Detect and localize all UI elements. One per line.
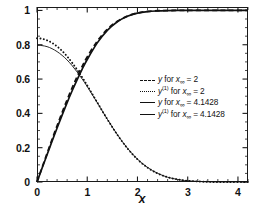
y-tick-label-5: 0 xyxy=(0,176,30,188)
legend-label-3: y(1) for x∞ = 4.1428 xyxy=(158,108,225,120)
y-tick-label-3: 0.4 xyxy=(0,107,30,119)
x-tick-label-1: 1 xyxy=(84,186,90,198)
legend-value: = 2 xyxy=(191,86,205,96)
x-tick-label-3: 3 xyxy=(185,186,191,198)
legend-value: = 4.1428 xyxy=(191,108,225,118)
legend-connector: for xyxy=(162,97,176,107)
y-tick-label-2: 0.6 xyxy=(0,73,30,85)
x-tick-label-0: 0 xyxy=(34,186,40,198)
chart-legend: y for x∞ = 2y(1) for x∞ = 2y for x∞ = 4.… xyxy=(140,74,244,120)
legend-entry-0: y for x∞ = 2 xyxy=(140,74,244,85)
solid-thin-line-marker xyxy=(140,108,155,119)
x-axis-title: x xyxy=(139,192,146,206)
legend-entry-2: y for x∞ = 4.1428 xyxy=(140,97,244,108)
dotted-line-marker xyxy=(140,86,155,97)
legend-value: = 2 xyxy=(184,74,198,84)
solid-thick-line-marker xyxy=(140,97,155,108)
dashed-line-marker xyxy=(140,74,155,85)
y-tick-label-1: 0.8 xyxy=(0,39,30,51)
y-tick-label-4: 0.2 xyxy=(0,142,30,154)
legend-connector: for xyxy=(162,74,176,84)
legend-entry-1: y(1) for x∞ = 2 xyxy=(140,85,244,96)
legend-connector: for xyxy=(169,108,183,118)
figure-root: 10.80.60.40.20 01234 y or y(1) x y for x… xyxy=(0,0,256,217)
x-tick-label-4: 4 xyxy=(235,186,241,198)
figure-caption-clipped xyxy=(0,210,256,217)
legend-entry-3: y(1) for x∞ = 4.1428 xyxy=(140,108,244,119)
legend-connector: for xyxy=(169,86,183,96)
y-tick-label-0: 1 xyxy=(0,4,30,16)
legend-value: = 4.1428 xyxy=(184,97,218,107)
